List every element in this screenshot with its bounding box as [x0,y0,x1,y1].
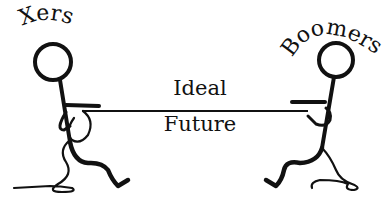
left-rope-tail [14,140,74,192]
right-figure-leg [266,148,322,186]
right-figure-head [319,43,353,77]
left-stick-figure [14,44,128,192]
right-figure-label: Boomers [276,14,388,61]
left-figure-label: Xers [15,0,77,30]
rope-label-bottom: Future [130,112,270,136]
right-stick-figure [266,43,358,190]
left-figure-head [35,44,71,80]
left-rope-wrap [68,111,90,142]
left-figure-leg [70,142,128,186]
right-figure-torso [322,77,334,148]
rope-label-top: Ideal [130,76,270,100]
left-figure-arm [66,105,99,106]
tug-of-war-illustration: Xers Boomers [0,0,390,204]
